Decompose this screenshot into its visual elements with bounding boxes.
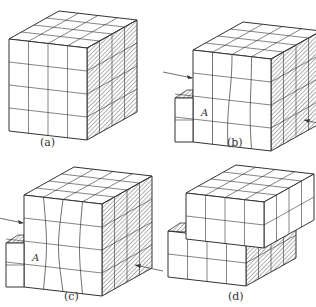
panel-c-cube: A [0, 167, 163, 296]
caption-c: (c) [64, 290, 79, 303]
figure-canvas: A A [0, 0, 316, 307]
point-label-A: A [31, 252, 39, 263]
panel-d-cube [168, 165, 314, 286]
panel-a-cube [9, 11, 137, 140]
point-label-A: A [200, 107, 208, 118]
panel-b-cube: A [163, 22, 316, 151]
caption-d: (d) [228, 290, 244, 303]
caption-b: (b) [227, 136, 243, 149]
caption-a: (a) [40, 136, 55, 149]
